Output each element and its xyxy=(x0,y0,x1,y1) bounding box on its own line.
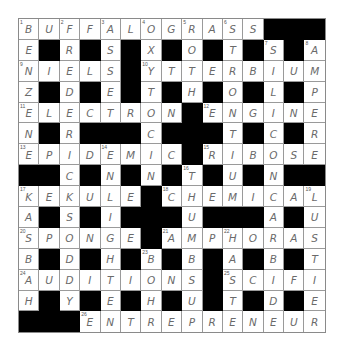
letter-cell[interactable]: T xyxy=(223,291,243,312)
letter-cell[interactable]: F xyxy=(284,270,304,291)
letter-cell[interactable]: H xyxy=(182,186,202,207)
letter-cell[interactable]: 3A xyxy=(101,19,121,40)
letter-cell[interactable]: R xyxy=(121,103,141,124)
letter-cell[interactable]: N xyxy=(243,311,263,332)
letter-cell[interactable]: 2F xyxy=(60,19,80,40)
letter-cell[interactable]: E xyxy=(203,186,223,207)
letter-cell[interactable]: E xyxy=(60,61,80,82)
letter-cell[interactable]: P xyxy=(39,144,59,165)
letter-cell[interactable]: 20S xyxy=(19,228,39,249)
letter-cell[interactable]: 13E xyxy=(19,144,39,165)
letter-cell[interactable]: R xyxy=(141,311,161,332)
letter-cell[interactable]: A xyxy=(264,207,284,228)
letter-cell[interactable]: 16T xyxy=(182,165,202,186)
letter-cell[interactable]: N xyxy=(284,103,304,124)
letter-cell[interactable]: E xyxy=(304,103,324,124)
letter-cell[interactable]: I xyxy=(304,270,324,291)
letter-cell[interactable]: G xyxy=(243,103,263,124)
letter-cell[interactable]: E xyxy=(39,186,59,207)
letter-cell[interactable]: 22H xyxy=(223,228,243,249)
letter-cell[interactable]: M xyxy=(182,228,202,249)
letter-cell[interactable]: H xyxy=(141,291,161,312)
letter-cell[interactable]: E xyxy=(304,144,324,165)
letter-cell[interactable]: N xyxy=(80,228,100,249)
letter-cell[interactable]: O xyxy=(141,270,161,291)
letter-cell[interactable]: E xyxy=(121,228,141,249)
letter-cell[interactable]: B xyxy=(243,61,263,82)
letter-cell[interactable]: U xyxy=(223,165,243,186)
letter-cell[interactable]: I xyxy=(264,103,284,124)
letter-cell[interactable]: 21A xyxy=(162,228,182,249)
letter-cell[interactable]: I xyxy=(39,61,59,82)
letter-cell[interactable]: C xyxy=(264,186,284,207)
letter-cell[interactable]: T xyxy=(141,82,161,103)
letter-cell[interactable]: 17K xyxy=(19,186,39,207)
letter-cell[interactable]: H xyxy=(101,249,121,270)
letter-cell[interactable]: O xyxy=(223,82,243,103)
letter-cell[interactable]: I xyxy=(101,207,121,228)
letter-cell[interactable]: I xyxy=(80,270,100,291)
letter-cell[interactable]: S xyxy=(182,270,202,291)
letter-cell[interactable]: G xyxy=(162,19,182,40)
letter-cell[interactable]: O xyxy=(264,144,284,165)
letter-cell[interactable]: O xyxy=(182,40,202,61)
letter-cell[interactable]: D xyxy=(60,82,80,103)
letter-cell[interactable]: I xyxy=(243,186,263,207)
letter-cell[interactable]: C xyxy=(243,270,263,291)
letter-cell[interactable]: H xyxy=(19,291,39,312)
letter-cell[interactable]: R xyxy=(223,61,243,82)
letter-cell[interactable]: 19L xyxy=(304,186,324,207)
letter-cell[interactable]: 14E xyxy=(101,144,121,165)
letter-cell[interactable]: P xyxy=(39,228,59,249)
letter-cell[interactable]: L xyxy=(121,19,141,40)
letter-cell[interactable]: D xyxy=(60,249,80,270)
letter-cell[interactable]: U xyxy=(182,207,202,228)
letter-cell[interactable]: S xyxy=(60,207,80,228)
letter-cell[interactable]: A xyxy=(284,186,304,207)
letter-cell[interactable]: R xyxy=(304,311,324,332)
letter-cell[interactable]: A xyxy=(19,207,39,228)
letter-cell[interactable]: O xyxy=(60,228,80,249)
letter-cell[interactable]: 23B xyxy=(141,249,161,270)
letter-cell[interactable]: T xyxy=(223,40,243,61)
letter-cell[interactable]: O xyxy=(243,228,263,249)
letter-cell[interactable]: R xyxy=(60,40,80,61)
letter-cell[interactable]: I xyxy=(264,270,284,291)
letter-cell[interactable]: E xyxy=(223,311,243,332)
letter-cell[interactable]: I xyxy=(60,144,80,165)
letter-cell[interactable]: 12E xyxy=(203,103,223,124)
letter-cell[interactable]: 8A xyxy=(304,40,324,61)
letter-cell[interactable]: D xyxy=(264,291,284,312)
letter-cell[interactable]: E xyxy=(121,186,141,207)
letter-cell[interactable]: E xyxy=(60,103,80,124)
letter-cell[interactable]: D xyxy=(80,144,100,165)
letter-cell[interactable]: E xyxy=(304,291,324,312)
letter-cell[interactable]: I xyxy=(223,144,243,165)
letter-cell[interactable]: B xyxy=(182,249,202,270)
letter-cell[interactable]: N xyxy=(141,165,161,186)
letter-cell[interactable]: M xyxy=(223,186,243,207)
letter-cell[interactable]: 24A xyxy=(19,270,39,291)
letter-cell[interactable]: X xyxy=(141,40,161,61)
letter-cell[interactable]: 15R xyxy=(203,144,223,165)
letter-cell[interactable]: R xyxy=(304,123,324,144)
letter-cell[interactable]: N xyxy=(19,123,39,144)
letter-cell[interactable]: S xyxy=(101,40,121,61)
letter-cell[interactable]: U xyxy=(304,207,324,228)
letter-cell[interactable]: U xyxy=(39,19,59,40)
letter-cell[interactable]: 11E xyxy=(19,103,39,124)
letter-cell[interactable]: A xyxy=(284,228,304,249)
letter-cell[interactable]: U xyxy=(284,61,304,82)
letter-cell[interactable]: U xyxy=(182,291,202,312)
letter-cell[interactable]: A xyxy=(223,249,243,270)
letter-cell[interactable]: F xyxy=(80,19,100,40)
letter-cell[interactable]: T xyxy=(223,123,243,144)
letter-cell[interactable]: P xyxy=(203,228,223,249)
letter-cell[interactable]: G xyxy=(101,228,121,249)
letter-cell[interactable]: D xyxy=(60,270,80,291)
letter-cell[interactable]: E xyxy=(19,40,39,61)
letter-cell[interactable]: I xyxy=(141,144,161,165)
letter-cell[interactable]: I xyxy=(264,61,284,82)
letter-cell[interactable]: P xyxy=(182,311,202,332)
letter-cell[interactable]: C xyxy=(162,144,182,165)
